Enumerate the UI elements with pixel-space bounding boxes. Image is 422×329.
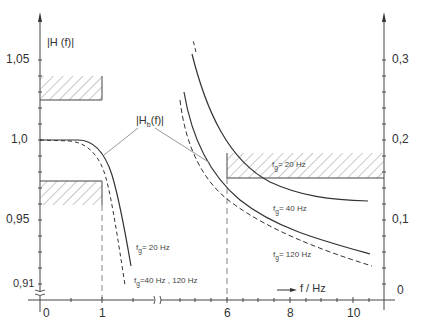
- y-tick-0-91: 0,91: [13, 277, 34, 289]
- r-tick-0-1: 0,1: [392, 212, 409, 226]
- x-axis-title: f / Hz: [300, 282, 326, 294]
- curve-fg-40-120hz-lowpass: [40, 140, 125, 285]
- curve-fg-120hz-highpass: [180, 100, 372, 266]
- label-hp-fg-40: fg= 40 Hz: [273, 204, 307, 215]
- tolerance-regions: [40, 76, 384, 205]
- label-lp-fg-20: fg= 20 Hz: [136, 243, 170, 254]
- x-tick-8: 8: [287, 306, 294, 320]
- r-tick-0-2: 0,2: [392, 132, 409, 146]
- x-tick-10: 10: [347, 306, 360, 320]
- x-axis: [28, 288, 395, 304]
- x-tick-0: 0: [43, 306, 50, 320]
- y-tick-1-05: 1,05: [6, 52, 29, 66]
- hb-annotation: |Hb(f)|: [136, 114, 164, 128]
- r-tick-0: 0: [397, 283, 404, 297]
- x-tick-1: 1: [99, 306, 106, 320]
- r-tick-0-3: 0,3: [392, 52, 409, 66]
- y-tick-0-95: 0,95: [6, 212, 29, 226]
- left-y-axis: [35, 12, 45, 312]
- y-left-title: |H (f)|: [47, 36, 74, 48]
- lowpass-curves: [40, 140, 131, 285]
- label-lp-fg-40-120: fg=40 Hz , 120 Hz: [134, 276, 198, 287]
- y-tick-1-0: 1,0: [11, 132, 28, 146]
- label-hp-fg-20: fg= 20 Hz: [272, 160, 306, 171]
- curve-fg-20hz-highpass: [192, 54, 368, 201]
- x-tick-6: 6: [224, 306, 231, 320]
- filter-response-diagram: [0, 0, 422, 329]
- label-hp-fg-120: fg= 120 Hz: [273, 250, 311, 261]
